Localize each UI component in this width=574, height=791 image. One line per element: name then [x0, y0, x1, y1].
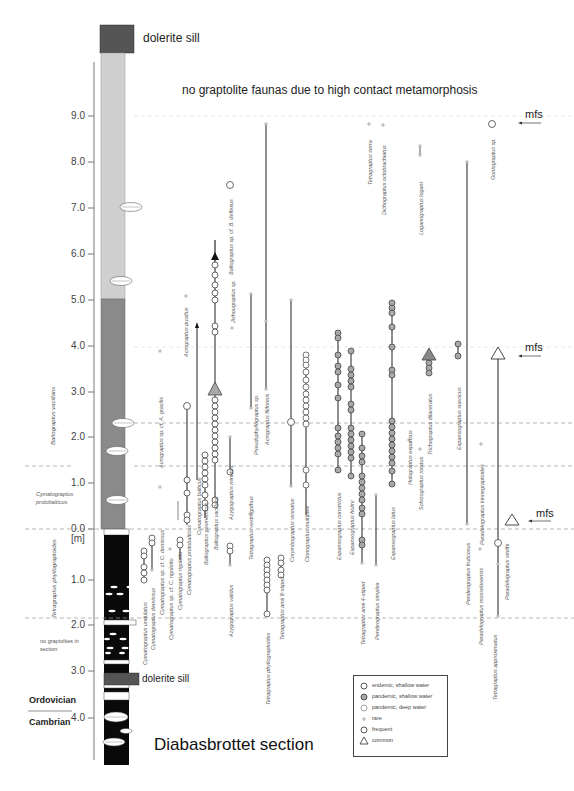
- tick-9: 9.0: [55, 110, 85, 121]
- tick-4: 4.0: [55, 340, 85, 351]
- no-graptolites-text: no graptolites in section: [40, 638, 79, 652]
- tick-lower-2: 2.0: [55, 619, 85, 630]
- species-label: Dichograptus octobrachiatus: [381, 145, 387, 215]
- species-label: Cymatograptus demissus: [150, 588, 156, 650]
- stratigraphic-diagram: dolerite sill no graptolite faunas due t…: [0, 0, 574, 791]
- species-label: Cymatograptus protobalticus: [186, 525, 192, 595]
- species-label: Holograptus expansus: [407, 430, 413, 485]
- tick-8: 8.0: [55, 156, 85, 167]
- species-label: Expansograptus latus: [390, 507, 396, 560]
- zone-label-protobalticus-text: Cymatograptus protobalticus: [36, 491, 73, 505]
- no-fauna-note: no graptolite faunas due to high contact…: [182, 83, 478, 97]
- species-label: Cymatograptus undulatus: [142, 602, 148, 665]
- species-label: Paradelograptus kinnegraptoides: [479, 464, 485, 545]
- species-label: Azygograptus minutus: [228, 466, 234, 520]
- legend-box: endemic, shallow water pandemic, shallow…: [353, 675, 448, 757]
- species-label: Pseudophyllograptus sp.: [253, 395, 259, 455]
- zone-label-protobalticus: Cymatograptus protobalticus: [36, 490, 86, 506]
- species-label: Tetragraptus serra: [367, 140, 373, 185]
- species-label: Pendeograptus simplex: [374, 583, 380, 640]
- species-label: Acrograptus filiformis: [264, 394, 270, 445]
- species-label: Tetragraptus amii 8-stiped: [279, 577, 285, 640]
- species-label: Baltograptus sp. cf. B. deflexus: [228, 199, 234, 275]
- legend-endemic-shallow: endemic, shallow water: [372, 682, 429, 688]
- species-label: Tetragraptus vestrogothus: [248, 496, 254, 560]
- species-label: Goniograptus sp.: [490, 138, 496, 180]
- species-label: Baltograptus vacillans: [213, 496, 219, 550]
- tick-7: 7.0: [55, 202, 85, 213]
- legend-common: common: [372, 737, 393, 743]
- tick-1: 1.0: [55, 477, 85, 488]
- period-cambrian: Cambrian: [29, 717, 71, 727]
- tick-lower-1: 1.0: [55, 574, 85, 585]
- period-ordovician: Ordovician: [29, 695, 76, 705]
- species-label: Paradelograptus mosseboensis: [478, 568, 484, 645]
- legend-pandemic-shallow: pandemic, shallow water: [372, 693, 432, 699]
- dolerite-sill-label-bottom: dolerite sill: [142, 673, 189, 684]
- no-graptolites-note: no graptolites in section: [40, 637, 80, 653]
- dolerite-sill-label-top: dolerite sill: [143, 31, 200, 45]
- species-label: Paradelograptus smithi: [504, 544, 510, 600]
- species-label: Baltograptus geometricus: [203, 503, 209, 565]
- mfs-label-middle: mfs: [525, 341, 543, 353]
- tick-5: 5.0: [55, 294, 85, 305]
- species-label: Cymatograptus sp. cf. C. demissus: [159, 530, 165, 615]
- tick-6: 6.0: [55, 248, 85, 259]
- species-label: Trichograptus dilaceratus: [427, 394, 433, 455]
- tick-3: 3.0: [55, 386, 85, 397]
- legend-rare: rare: [372, 715, 382, 721]
- species-label: Pendeograptus fruticosus: [465, 543, 471, 605]
- species-label: Schizograptus rotatus: [418, 457, 424, 510]
- legend-pandemic-deep: pandemic, deep water: [372, 704, 426, 710]
- legend-frequent: frequent: [372, 726, 392, 732]
- species-label: Tetragraptus approximatus: [492, 635, 498, 700]
- species-label: Tetragraptus amii 4-stiped: [360, 582, 366, 645]
- tick-lower-3: 3.0: [55, 665, 85, 676]
- species-label: Acrograptus sp. cf. A. gracilis: [158, 397, 164, 468]
- legend-symbols: [359, 676, 371, 756]
- species-label: Azygograptus validus: [228, 585, 234, 637]
- section-drawing: [0, 0, 574, 791]
- mfs-label-lower: mfs: [536, 507, 554, 519]
- species-label: Tetragraptus phyllograptoides: [265, 633, 271, 705]
- species-label: Expansograptus constrictus: [336, 492, 342, 560]
- species-label: Clonograptus multiplex: [304, 506, 310, 562]
- species-label: Cymatograptus sp. cf. C. rigoletto: [168, 558, 174, 640]
- species-label: Expansograptus suecicus: [456, 387, 462, 450]
- species-label: Cymatograptus balticus: [196, 478, 202, 535]
- tick-2: 2.0: [55, 431, 85, 442]
- axis-unit: [m]: [71, 533, 85, 544]
- species-label: Corymbograptus vicinatus: [289, 498, 295, 562]
- species-label: Expansograptus holmi: [349, 501, 355, 555]
- zone-label-vacillans: Baltograptus vacillans: [50, 387, 56, 445]
- section-title: Diabasbrottet section: [154, 735, 314, 755]
- species-label: Jishougraptus sp.: [230, 280, 236, 323]
- species-label: Loganograptus logani: [418, 182, 424, 235]
- species-label: Cymatograptus rigoletto: [177, 552, 183, 610]
- mfs-label-upper: mfs: [525, 108, 543, 120]
- species-label: Acrograptus pusillus: [183, 307, 189, 357]
- zone-label-phyllograptoides: Tetragraptus phyllograptoides: [51, 539, 57, 618]
